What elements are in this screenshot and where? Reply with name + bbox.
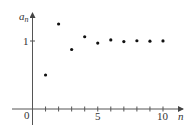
x-tick-label-0: 0 (24, 109, 30, 121)
data-point-10 (161, 39, 164, 42)
x-axis-label: n (178, 110, 184, 122)
data-point-2 (57, 22, 60, 25)
data-point-8 (135, 39, 138, 42)
x-tick-label-10: 10 (157, 110, 169, 122)
sequence-scatter-chart: 0 5 10 1 n an (0, 0, 192, 131)
x-tick-label-5: 5 (95, 110, 101, 122)
data-point-9 (148, 40, 151, 43)
data-points (44, 22, 165, 76)
data-point-7 (122, 40, 125, 43)
y-axis-label: an (19, 10, 29, 24)
data-point-1 (44, 73, 47, 76)
data-point-4 (83, 35, 86, 38)
y-tick-label-1: 1 (23, 35, 29, 47)
data-point-5 (96, 42, 99, 45)
data-point-3 (70, 48, 73, 51)
y-axis-label-sub: n (25, 15, 29, 24)
data-point-6 (109, 38, 112, 41)
